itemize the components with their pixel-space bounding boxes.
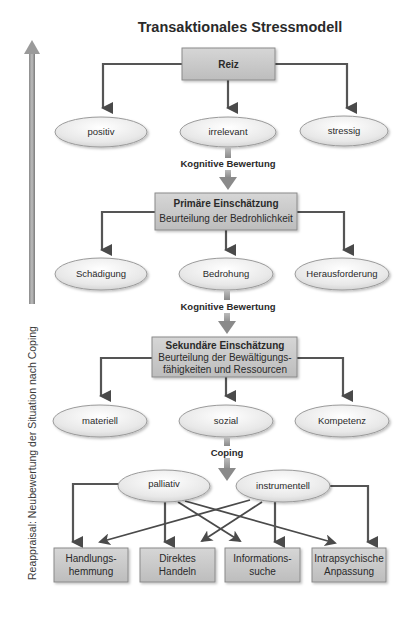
reappraisal-arrow (24, 40, 40, 304)
transition-arrow-2 (218, 291, 236, 334)
svg-text:Kompetenz: Kompetenz (318, 415, 366, 426)
node-reiz: Reiz (182, 48, 275, 80)
transition-label-2: Kognitive Bewertung (180, 301, 275, 312)
svg-text:fähigkeiten und Ressourcen: fähigkeiten und Ressourcen (163, 364, 287, 375)
transition-label-1: Kognitive Bewertung (180, 158, 275, 169)
node-kompetenz: Kompetenz (295, 405, 389, 437)
reappraisal-label: Reappraisal: Neubewertung der Situation … (26, 326, 38, 580)
svg-text:Reiz: Reiz (218, 59, 239, 70)
svg-text:Anpassung: Anpassung (324, 566, 374, 577)
node-herausforderung: Herausforderung (295, 258, 389, 290)
svg-text:Handeln: Handeln (159, 566, 196, 577)
svg-text:instrumentell: instrumentell (256, 480, 310, 491)
svg-text:Intrapsychische: Intrapsychische (314, 553, 384, 564)
svg-text:materiell: materiell (82, 415, 118, 426)
node-irrelevant: irrelevant (180, 117, 276, 147)
node-positiv: positiv (55, 117, 147, 147)
svg-text:Bedrohung: Bedrohung (203, 268, 249, 279)
svg-text:Informations-: Informations- (233, 553, 291, 564)
svg-text:Handlungs-: Handlungs- (65, 553, 116, 564)
node-schaedigung: Schädigung (55, 258, 147, 290)
svg-text:sozial: sozial (214, 415, 238, 426)
node-materiell: materiell (53, 405, 147, 437)
node-bedrohung: Bedrohung (179, 258, 273, 290)
svg-text:Primäre Einschätzung: Primäre Einschätzung (173, 198, 278, 209)
svg-text:Beurteilung der Bedrohlichkeit: Beurteilung der Bedrohlichkeit (159, 213, 293, 224)
svg-text:hemmung: hemmung (69, 566, 113, 577)
svg-text:stressig: stressig (328, 125, 361, 136)
node-stressig: stressig (300, 116, 388, 146)
node-sozial: sozial (179, 405, 273, 437)
node-instrumentell: instrumentell (236, 470, 330, 502)
node-sekundaere-einschaetzung: Sekundäre Einschätzung Beurteilung der B… (152, 337, 297, 377)
node-direktes-handeln: Direktes Handeln (140, 548, 215, 582)
transition-arrow-3 (218, 438, 236, 481)
node-informationssuche: Informations- suche (225, 548, 300, 582)
transition-arrow-1 (219, 148, 237, 190)
svg-text:suche: suche (249, 566, 276, 577)
svg-text:Sekundäre Einschätzung: Sekundäre Einschätzung (166, 340, 285, 351)
diagram-title: Transaktionales Stressmodell (138, 19, 343, 35)
svg-text:Herausforderung: Herausforderung (306, 268, 377, 279)
node-primaere-einschaetzung: Primäre Einschätzung Beurteilung der Bed… (155, 193, 297, 230)
stress-model-diagram: Transaktionales Stressmodell Reappraisal… (0, 0, 410, 619)
transition-label-3: Coping (211, 447, 244, 458)
svg-text:positiv: positiv (88, 126, 115, 137)
svg-text:Beurteilung der Bewältigungs-: Beurteilung der Bewältigungs- (158, 352, 291, 363)
svg-text:Schädigung: Schädigung (76, 268, 126, 279)
svg-text:irrelevant: irrelevant (208, 126, 247, 137)
svg-text:Direktes: Direktes (159, 553, 196, 564)
svg-text:palliativ: palliativ (148, 478, 180, 489)
node-palliativ: palliativ (118, 470, 210, 502)
node-intrapsychische-anpassung: Intrapsychische Anpassung (312, 548, 386, 582)
node-handlungshemmung: Handlungs- hemmung (54, 548, 128, 582)
